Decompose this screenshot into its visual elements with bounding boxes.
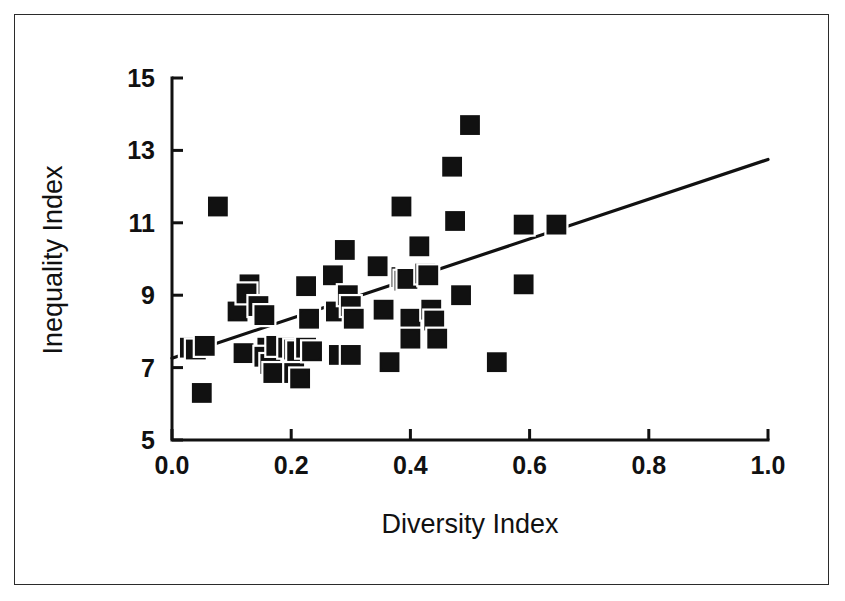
- marker-core: [375, 301, 392, 318]
- data-point-marker: [262, 362, 284, 384]
- scatter-plot: 0.00.20.40.60.81.0 579111315 Diversity I…: [0, 0, 845, 601]
- data-point-marker: [441, 156, 463, 178]
- x-tick-labels: 0.00.20.40.60.81.0: [155, 451, 786, 479]
- x-tick-label: 1.0: [751, 451, 786, 479]
- marker-core: [265, 365, 282, 382]
- marker-core: [453, 287, 470, 304]
- marker-core: [488, 354, 505, 371]
- marker-core: [444, 158, 461, 175]
- marker-core: [369, 258, 386, 275]
- y-tick-label: 13: [127, 136, 155, 164]
- x-tick-label: 0.6: [512, 451, 547, 479]
- marker-core: [381, 354, 398, 371]
- marker-core: [325, 267, 342, 284]
- data-point-marker: [408, 235, 430, 257]
- marker-core: [292, 370, 309, 387]
- marker-core: [411, 238, 428, 255]
- y-tick-label: 7: [141, 354, 155, 382]
- marker-core: [402, 330, 419, 347]
- data-point-marker: [191, 382, 213, 404]
- data-point-marker: [444, 210, 466, 232]
- regression-line: [172, 159, 768, 358]
- marker-core: [229, 303, 246, 320]
- marker-core: [548, 216, 565, 233]
- data-point-marker: [322, 264, 344, 286]
- linear-regression-line: [172, 159, 768, 358]
- data-point-marker: [298, 308, 320, 330]
- data-point-marker: [253, 304, 275, 326]
- data-point-marker: [513, 214, 535, 236]
- data-point-marker: [295, 275, 317, 297]
- data-point-marker: [334, 239, 356, 261]
- data-point-marker: [399, 328, 421, 350]
- y-tick-label: 11: [129, 209, 156, 237]
- figure-page: 0.00.20.40.60.81.0 579111315 Diversity I…: [0, 0, 845, 601]
- data-point-marker: [379, 351, 401, 373]
- x-tick-label: 0.2: [274, 451, 309, 479]
- marker-core: [345, 310, 362, 327]
- marker-core: [342, 347, 359, 364]
- marker-core: [426, 312, 443, 329]
- marker-core: [336, 242, 353, 259]
- data-point-marker: [233, 342, 255, 364]
- marker-core: [304, 343, 321, 360]
- data-point-marker: [417, 264, 439, 286]
- x-tick-label: 0.8: [631, 451, 666, 479]
- data-point-marker: [343, 308, 365, 330]
- x-tick-label: 0.4: [393, 451, 428, 479]
- y-tick-labels: 579111315: [127, 64, 155, 454]
- x-tick-label: 0.0: [155, 451, 190, 479]
- data-point-marker: [367, 255, 389, 277]
- x-axis-title: Diversity Index: [381, 509, 559, 539]
- data-point-marker: [207, 196, 229, 218]
- y-axis-title: Inequality Index: [38, 165, 68, 355]
- data-point-marker: [399, 308, 421, 330]
- marker-core: [429, 330, 446, 347]
- marker-core: [447, 213, 464, 230]
- data-point-marker: [373, 299, 395, 321]
- data-point-marker: [545, 214, 567, 236]
- data-point-marker: [289, 367, 311, 389]
- y-tick-label: 9: [141, 281, 155, 309]
- marker-core: [420, 267, 437, 284]
- marker-core: [515, 216, 532, 233]
- marker-core: [393, 198, 410, 215]
- marker-core: [515, 276, 532, 293]
- marker-core: [402, 310, 419, 327]
- data-point-marker: [390, 196, 412, 218]
- marker-core: [196, 337, 213, 354]
- data-point-marker: [486, 351, 508, 373]
- marker-core: [298, 278, 315, 295]
- y-tick-label: 15: [127, 64, 155, 92]
- data-point-marker: [301, 340, 323, 362]
- marker-core: [193, 385, 210, 402]
- marker-core: [301, 310, 318, 327]
- data-point-marker: [513, 273, 535, 295]
- y-tick-label: 5: [141, 426, 155, 454]
- data-point-marker: [426, 328, 448, 350]
- marker-core: [209, 198, 226, 215]
- marker-core: [462, 117, 479, 134]
- data-point-marker: [194, 335, 216, 357]
- data-point-marker: [459, 114, 481, 136]
- data-point-marker: [340, 344, 362, 366]
- marker-core: [256, 307, 273, 324]
- data-points: [179, 114, 568, 404]
- data-point-marker: [450, 284, 472, 306]
- marker-core: [235, 345, 252, 362]
